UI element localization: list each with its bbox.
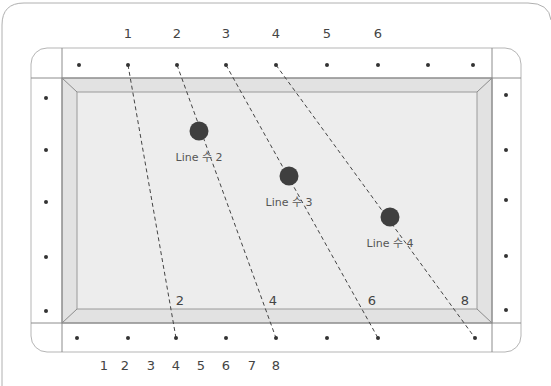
bottom-number-label: 5	[197, 358, 205, 373]
diamond-dot	[175, 63, 179, 67]
diamond-dot	[75, 336, 79, 340]
diamond-dot	[44, 309, 48, 313]
inner-number-label: 6	[368, 293, 376, 308]
top-number-label: 2	[173, 26, 181, 41]
inner-number-label: 8	[461, 293, 469, 308]
top-number-label: 5	[323, 26, 331, 41]
bottom-number-label: 2	[121, 358, 129, 373]
billiard-diagram: Line 수 2Line 수 3Line 수 4 123456123456782…	[0, 0, 551, 386]
inner-number-label: 2	[176, 293, 184, 308]
diamond-dot	[126, 336, 130, 340]
ball	[381, 208, 400, 227]
diamond-dot	[274, 336, 278, 340]
top-number-label: 3	[222, 26, 230, 41]
top-number-label: 4	[272, 26, 280, 41]
diamond-dot	[174, 336, 178, 340]
diamond-dot	[77, 63, 81, 67]
bottom-number-label: 4	[172, 358, 180, 373]
diamond-dot	[44, 255, 48, 259]
diamond-dot	[504, 254, 508, 258]
diamond-dot	[504, 148, 508, 152]
diamond-dot	[126, 63, 130, 67]
ball-label: Line 수 3	[266, 196, 313, 209]
ball-label: Line 수 2	[176, 151, 223, 164]
top-number-label: 1	[124, 26, 132, 41]
diamond-dot	[274, 63, 278, 67]
diamond-dot	[376, 336, 380, 340]
diamond-dot	[504, 93, 508, 97]
bottom-number-label: 3	[147, 358, 155, 373]
diamond-dot	[325, 63, 329, 67]
diamond-dot	[224, 336, 228, 340]
ball	[280, 167, 299, 186]
diamond-dot	[224, 63, 228, 67]
ball-label: Line 수 4	[367, 237, 414, 250]
diamond-dot	[44, 148, 48, 152]
diamond-dot	[471, 63, 475, 67]
bottom-number-label: 8	[272, 358, 280, 373]
bottom-number-label: 7	[248, 358, 256, 373]
diamond-dot	[376, 63, 380, 67]
bottom-number-label: 1	[100, 358, 108, 373]
top-number-label: 6	[374, 26, 382, 41]
diamond-dot	[504, 308, 508, 312]
bottom-number-label: 6	[222, 358, 230, 373]
ball	[190, 122, 209, 141]
diamond-dot	[325, 336, 329, 340]
diamond-dot	[473, 336, 477, 340]
diamond-dot	[426, 63, 430, 67]
inner-number-label: 4	[269, 293, 277, 308]
diamond-dot	[44, 96, 48, 100]
diamond-dot	[44, 200, 48, 204]
diamond-dot	[504, 198, 508, 202]
